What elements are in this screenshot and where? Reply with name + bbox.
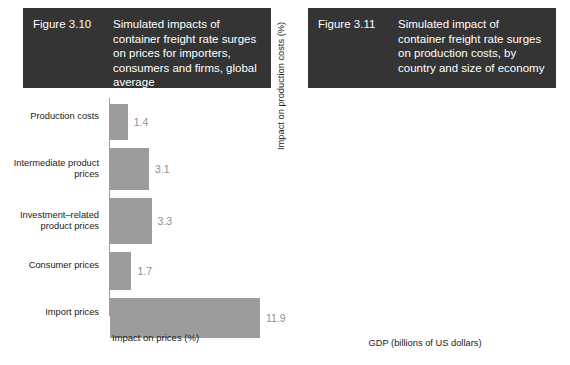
- bar-value-label: 3.1: [155, 163, 170, 175]
- bar-category-label: Production costs: [0, 111, 99, 122]
- bar-value-label: 3.3: [158, 215, 173, 227]
- bar-value-label: 11.9: [266, 312, 286, 324]
- bar: [110, 148, 149, 190]
- figure-title-left: Simulated impacts of container freight r…: [109, 8, 271, 88]
- figure-page: Figure 3.10 Simulated impacts of contain…: [0, 0, 570, 365]
- figure-3-10-panel: Figure 3.10 Simulated impacts of contain…: [0, 0, 285, 365]
- scatter-x-axis-title: GDP (billions of US dollars): [300, 338, 550, 348]
- bar: [110, 198, 152, 244]
- bar-chart: Production costs1.4Intermediate product …: [0, 96, 285, 326]
- bar-category-label: Investment–related product prices: [0, 210, 99, 232]
- bar: [110, 252, 131, 290]
- bar-chart-x-title: Impact on prices (%): [0, 332, 285, 343]
- scatter-chart: Impact on production costs (%) TWNSVKCZE…: [285, 0, 570, 365]
- bar: [110, 104, 128, 140]
- bar-category-label: Import prices: [0, 307, 99, 318]
- bar-value-label: 1.4: [134, 116, 149, 128]
- bar-category-label: Intermediate product prices: [0, 158, 99, 180]
- bar-value-label: 1.7: [137, 265, 152, 277]
- scatter-y-axis-title: Impact on production costs (%): [276, 22, 286, 150]
- bar-category-label: Consumer prices: [0, 260, 99, 271]
- figure-3-10-banner: Figure 3.10 Simulated impacts of contain…: [23, 8, 271, 88]
- figure-number-left: Figure 3.10: [23, 8, 109, 88]
